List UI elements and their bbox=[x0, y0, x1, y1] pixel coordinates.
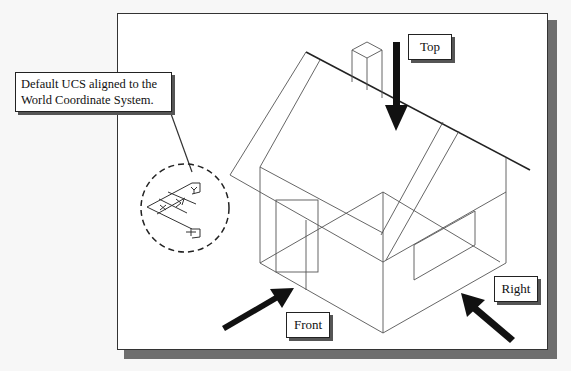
ucs-icon bbox=[141, 164, 229, 252]
top-arrow-head bbox=[385, 105, 408, 131]
ucs-callout: Default UCS aligned to the World Coordin… bbox=[15, 72, 172, 112]
ucs-dashed-circle bbox=[141, 164, 229, 252]
view-arrows bbox=[222, 42, 515, 343]
top-arrow-shaft bbox=[393, 42, 400, 107]
right-arrow-shaft bbox=[470, 304, 515, 343]
top-view-label: Top bbox=[408, 34, 452, 60]
callout-line-1: Default UCS aligned to the bbox=[21, 76, 166, 92]
x-axis-letter bbox=[160, 205, 166, 210]
callout-line-2: World Coordinate System. bbox=[21, 92, 166, 108]
callout-pointer bbox=[170, 111, 192, 172]
right-view-label: Right bbox=[494, 276, 538, 302]
front-arrow-shaft bbox=[222, 294, 280, 331]
front-view-label: Front bbox=[286, 312, 330, 338]
